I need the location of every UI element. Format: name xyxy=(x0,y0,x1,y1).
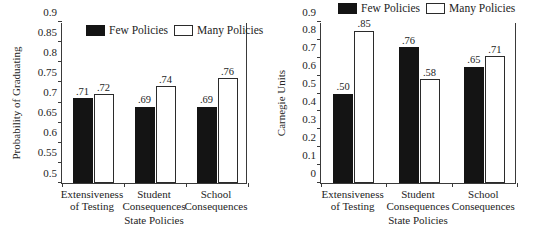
bar-few-policies xyxy=(464,67,484,183)
x-axis-category-label-line: School xyxy=(452,188,515,200)
bar-many-policies xyxy=(156,86,176,183)
x-axis-title: State Policies xyxy=(124,214,184,226)
chart-panel-carnegie-units: Carnegie Units 00.10.20.30.40.50.60.70.8… xyxy=(266,0,533,235)
x-axis-category-label-line: Extensiveness xyxy=(61,188,123,200)
bar-many-policies xyxy=(420,79,440,183)
x-axis-tick xyxy=(517,183,518,187)
x-axis-category-label-line: Consequences xyxy=(387,200,450,212)
y-axis-tick-label: 0.7 xyxy=(43,87,57,98)
x-axis-tick xyxy=(186,183,187,187)
y-axis-title: Carnegie Units xyxy=(275,43,287,163)
legend-swatch-many-icon xyxy=(174,25,193,36)
legend-swatch-few-icon xyxy=(338,3,357,14)
legend-swatch-few-icon xyxy=(86,25,105,36)
y-axis-tick-label: 0.9 xyxy=(302,6,316,17)
y-axis-tick-label: 0.9 xyxy=(43,6,57,17)
x-axis-category-label-line: Consequences xyxy=(123,200,186,212)
x-axis-category-label-line: Consequences xyxy=(452,200,515,212)
y-axis-tick-label: 0.8 xyxy=(302,24,316,35)
y-axis-tick-label: 0.8 xyxy=(43,46,57,57)
y-axis-tick xyxy=(317,57,321,58)
legend-label-few: Few Policies xyxy=(109,24,168,36)
legend-label-few: Few Policies xyxy=(361,2,420,14)
legend-label-many: Many Policies xyxy=(449,2,515,14)
y-axis-tick-label: 0.85 xyxy=(38,26,57,37)
x-axis-category-label: Extensivenessof Testing xyxy=(321,188,383,212)
bar-many-policies xyxy=(218,78,238,183)
y-axis-tick xyxy=(58,142,62,143)
y-axis-tick-label: 0.55 xyxy=(38,147,57,158)
y-axis-tick-label: 0.7 xyxy=(302,42,316,53)
bar-value-label: .65 xyxy=(467,55,480,66)
y-axis-tick-label: 0.2 xyxy=(302,131,316,142)
legend-entry-few: Few Policies xyxy=(338,2,420,14)
bar-value-label: .71 xyxy=(76,87,89,98)
bar-value-label: .85 xyxy=(358,19,371,30)
x-axis-category-label: Extensivenessof Testing xyxy=(61,188,123,212)
legend-entry-few: Few Policies xyxy=(86,24,168,36)
y-axis-tick xyxy=(317,128,321,129)
y-axis-tick xyxy=(58,81,62,82)
bar-value-label: .76 xyxy=(221,67,234,78)
y-axis-tick-label: 0 xyxy=(311,167,317,178)
y-axis-tick-label: 0.6 xyxy=(302,60,316,71)
legend-entry-many: Many Policies xyxy=(426,2,515,14)
x-axis-tick xyxy=(248,183,249,187)
x-axis-tick xyxy=(62,183,63,187)
plot-area: 0.50.550.60.650.70.750.80.850.9.71.72.69… xyxy=(61,23,247,184)
x-axis-category-label-line: School xyxy=(185,188,248,200)
x-axis-tick xyxy=(386,183,387,187)
x-axis-category-label-line: of Testing xyxy=(321,200,383,212)
x-axis-title: State Policies xyxy=(388,214,448,226)
y-axis-tick xyxy=(58,21,62,22)
y-axis-tick-label: 0.1 xyxy=(302,149,316,160)
bar-value-label: .58 xyxy=(423,68,436,79)
bar-few-policies xyxy=(197,107,217,183)
bar-few-policies xyxy=(135,107,155,183)
y-axis-tick xyxy=(317,93,321,94)
y-axis-tick-label: 0.5 xyxy=(302,78,316,89)
bar-few-policies xyxy=(73,98,93,183)
legend-swatch-many-icon xyxy=(426,3,445,14)
bar-value-label: .76 xyxy=(402,36,415,47)
chart-panel-probability-of-graduating: Probability of Graduating 0.50.550.60.65… xyxy=(0,0,266,235)
bar-value-label: .72 xyxy=(97,83,110,94)
x-axis-category-label-line: Consequences xyxy=(185,200,248,212)
y-axis-title: Probability of Graduating xyxy=(10,28,22,178)
bar-few-policies xyxy=(399,47,419,183)
legend-label-many: Many Policies xyxy=(197,24,263,36)
bar-value-label: .50 xyxy=(337,82,350,93)
bar-value-label: .71 xyxy=(488,45,501,56)
y-axis-tick xyxy=(317,164,321,165)
bar-many-policies xyxy=(354,31,374,183)
bar-many-policies xyxy=(485,56,505,183)
y-axis-tick-label: 0.3 xyxy=(302,113,316,124)
x-axis-category-label-line: Student xyxy=(387,188,450,200)
legend-entry-many: Many Policies xyxy=(174,24,263,36)
x-axis-tick xyxy=(452,183,453,187)
x-axis-tick xyxy=(124,183,125,187)
plot-area: 00.10.20.30.40.50.60.70.80.9.50.85.76.58… xyxy=(320,23,516,184)
y-axis-tick xyxy=(317,21,321,22)
bar-value-label: .69 xyxy=(200,95,213,106)
x-axis-tick xyxy=(321,183,322,187)
figure-root: Probability of Graduating 0.50.550.60.65… xyxy=(0,0,533,235)
x-axis-category-label-line: of Testing xyxy=(61,200,123,212)
y-axis-tick xyxy=(58,61,62,62)
bar-few-policies xyxy=(333,94,353,183)
legend: Few Policies Many Policies xyxy=(86,24,263,36)
y-axis-tick-label: 0.75 xyxy=(38,66,57,77)
y-axis-tick xyxy=(317,146,321,147)
y-axis-tick xyxy=(58,102,62,103)
bar-value-label: .74 xyxy=(159,75,172,86)
legend: Few Policies Many Policies xyxy=(338,2,515,14)
x-axis-category-label-line: Extensiveness xyxy=(321,188,383,200)
x-axis-category-label: StudentConsequences xyxy=(387,188,450,212)
y-axis-tick-label: 0.4 xyxy=(302,95,316,106)
x-axis-category-label: StudentConsequences xyxy=(123,188,186,212)
y-axis-tick xyxy=(58,162,62,163)
y-axis-tick-label: 0.6 xyxy=(43,127,57,138)
y-axis-tick-label: 0.65 xyxy=(38,107,57,118)
bar-value-label: .69 xyxy=(138,95,151,106)
y-axis-tick xyxy=(317,75,321,76)
